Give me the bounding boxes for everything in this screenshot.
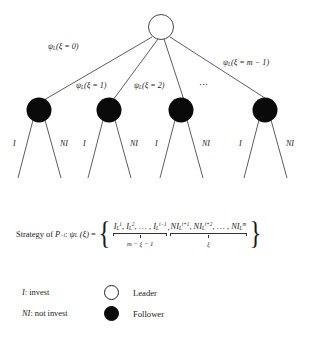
legend-leader-node-icon — [104, 285, 119, 300]
legend-follower-label: Follower — [133, 309, 164, 319]
edge-line-follower-1-not-invest — [45, 120, 61, 178]
legend-abbrev-invest-colon: : — [25, 288, 27, 297]
strategy-argument: (ξ) — [80, 230, 89, 239]
follower-node-1 — [27, 98, 52, 123]
strategy-group-not-invest-terms: NILi+1, NILi+2, … , NILm — [170, 222, 248, 232]
edge-label-arg: (ξ = 0) — [56, 42, 79, 51]
strategy-group-not-invest-underbrace — [170, 232, 248, 238]
legend-leader-label: Leader — [133, 288, 157, 298]
strategy-lead-text: Strategy of — [16, 230, 53, 239]
strategy-group-not-invest: NILi+1, NILi+2, … , NILm ξ — [170, 222, 248, 247]
edge-line-follower-4-not-invest — [271, 120, 287, 178]
legend-abbrev-invest: I: invest — [22, 288, 104, 297]
strategy-group-invest-count: m − ξ − 1 — [127, 240, 153, 247]
legend-abbrev-invest-meaning: invest — [29, 288, 49, 297]
edge-line-follower-2-invest — [88, 120, 103, 178]
follower-node-4 — [253, 98, 278, 123]
action-label-not-invest-2: NI — [130, 140, 138, 148]
edge-line-root-to-follower-4 — [170, 37, 268, 100]
follower-node-3 — [169, 98, 194, 123]
edge-line-root-to-follower-2 — [113, 39, 158, 100]
legend-abbrev-not-invest-colon: : — [30, 309, 32, 318]
legend-row-invest: I: invest Leader — [22, 282, 302, 303]
edge-label-xi-1: ψL(ξ = 1) — [76, 82, 107, 90]
edge-line-follower-3-invest — [160, 120, 175, 178]
edge-line-follower-3-not-invest — [187, 120, 203, 178]
strategy-group-invest-underbrace — [113, 232, 168, 238]
edge-line-follower-2-not-invest — [115, 120, 131, 178]
follower-node-2 — [97, 98, 122, 123]
edge-label-arg: (ξ = 2) — [142, 81, 165, 90]
strategy-formula: Strategy of P−i: ψL (ξ) = { IL1, IL2, … … — [16, 222, 264, 247]
edge-label-arg: (ξ = m − 1) — [231, 58, 269, 67]
legend-abbrev-not-invest-meaning: not invest — [35, 309, 68, 318]
strategy-equals: = — [91, 230, 96, 239]
strategy-group-invest: IL1, IL2, … , ILi−1 m − ξ − 1 — [113, 222, 168, 247]
strategy-colon: : — [65, 230, 67, 239]
strategy-function-symbol: ψ — [70, 230, 75, 239]
action-label-invest-1: I — [13, 140, 16, 148]
leader-node — [149, 15, 174, 40]
legend-row-not-invest: NI: not invest Follower — [22, 303, 302, 324]
strategy-group-invest-terms: IL1, IL2, … , ILi−1 — [113, 222, 168, 232]
game-tree-figure: ψL(ξ = 0) ψL(ξ = 1) ψL(ξ = 2) ⋯ ψL(ξ = m… — [0, 0, 319, 343]
edge-label-xi-0: ψL(ξ = 0) — [48, 43, 79, 51]
legend: I: invest Leader NI: not invest Follower — [22, 282, 302, 324]
action-label-not-invest-1: NI — [60, 140, 68, 148]
action-label-not-invest-4: NI — [286, 140, 294, 148]
action-label-invest-2: I — [83, 140, 86, 148]
edge-line-follower-1-invest — [18, 120, 33, 178]
action-label-invest-3: I — [155, 140, 158, 148]
action-label-not-invest-3: NI — [202, 140, 210, 148]
edge-label-arg: (ξ = 1) — [84, 81, 107, 90]
edge-label-ellipsis: ⋯ — [199, 81, 209, 90]
strategy-open-brace: { — [98, 222, 110, 246]
edge-line-root-to-follower-3 — [164, 39, 184, 100]
legend-follower-node-icon — [104, 306, 119, 321]
edge-line-follower-4-invest — [244, 120, 259, 178]
strategy-close-brace: } — [250, 222, 262, 246]
edge-label-xi-m-1: ψL(ξ = m − 1) — [223, 59, 269, 67]
legend-abbrev-not-invest: NI: not invest — [22, 309, 104, 318]
edge-label-xi-2: ψL(ξ = 2) — [134, 82, 165, 90]
action-label-invest-4: I — [239, 140, 242, 148]
strategy-group-not-invest-count: ξ — [207, 240, 210, 247]
